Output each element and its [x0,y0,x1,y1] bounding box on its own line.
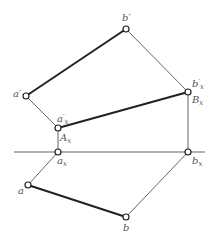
label-A-x: Ax [60,133,71,145]
label-a-x: ax [57,156,67,168]
edge-aprime-aprimex [26,96,58,128]
point-b-prime-x [185,89,191,95]
point-a [25,182,31,188]
edge-bprime-bprimex [126,29,188,92]
edge-aprimex-bprimex [58,92,188,128]
edge-aprime-bprime [26,29,126,96]
label-a-prime: a′ [13,89,21,99]
label-B-x: Bx [192,95,203,107]
diagram-svg [0,0,217,241]
label-b-prime-x: b′x [192,79,204,91]
label-a-prime-x: a′x [57,114,69,126]
point-b-x [185,149,191,155]
edge-ax-a [28,152,58,185]
label-b-x: bx [192,156,202,168]
edge-a-b [28,185,126,217]
projection-diagram: b′ a′ a′x Ax ax b′x Bx bx a b [0,0,217,241]
point-b-prime [123,26,129,32]
label-b: b [123,223,129,233]
point-b [123,214,129,220]
point-a-prime [23,93,29,99]
label-a: a [18,186,24,196]
edge-bx-b [126,152,188,217]
label-b-prime: b′ [122,13,131,23]
